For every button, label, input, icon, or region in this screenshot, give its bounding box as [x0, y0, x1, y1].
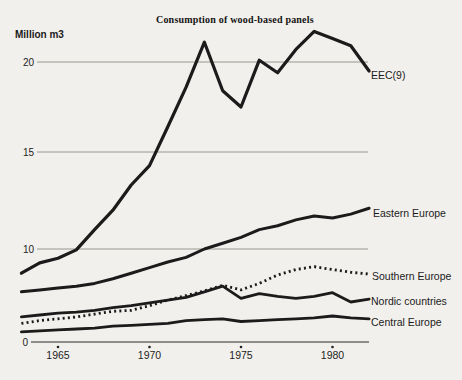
wood-panels-line-chart: 20151001965197019751980EEC(9)Eastern Eur… [0, 0, 462, 380]
scanned-chart-page: Consumption of wood-based panels Million… [0, 0, 462, 380]
x-tick-label-1965: 1965 [46, 349, 70, 361]
x-tick-label-1980: 1980 [321, 349, 345, 361]
series-label-nordic-countries: Nordic countries [371, 295, 447, 307]
y-tick-label-20: 20 [23, 57, 35, 68]
x-tick-dot-1970 [148, 346, 151, 349]
series-label-eec-9: EEC(9) [371, 69, 405, 81]
x-tick-dot-1965 [57, 346, 60, 349]
y-tick-label-15: 15 [23, 147, 35, 158]
y-origin-label: 0 [22, 337, 28, 348]
series-line-nordic-countries [21, 286, 369, 317]
y-tick-label-10: 10 [23, 244, 35, 255]
x-tick-dot-1975 [240, 346, 243, 349]
x-tick-label-1975: 1975 [229, 349, 253, 361]
x-tick-label-1970: 1970 [138, 349, 162, 361]
series-label-central-europe: Central Europe [371, 316, 442, 328]
series-label-eastern-europe: Eastern Europe [373, 207, 446, 219]
series-label-southern-europe: Southern Europe [372, 270, 452, 282]
x-tick-dot-1980 [331, 346, 334, 349]
